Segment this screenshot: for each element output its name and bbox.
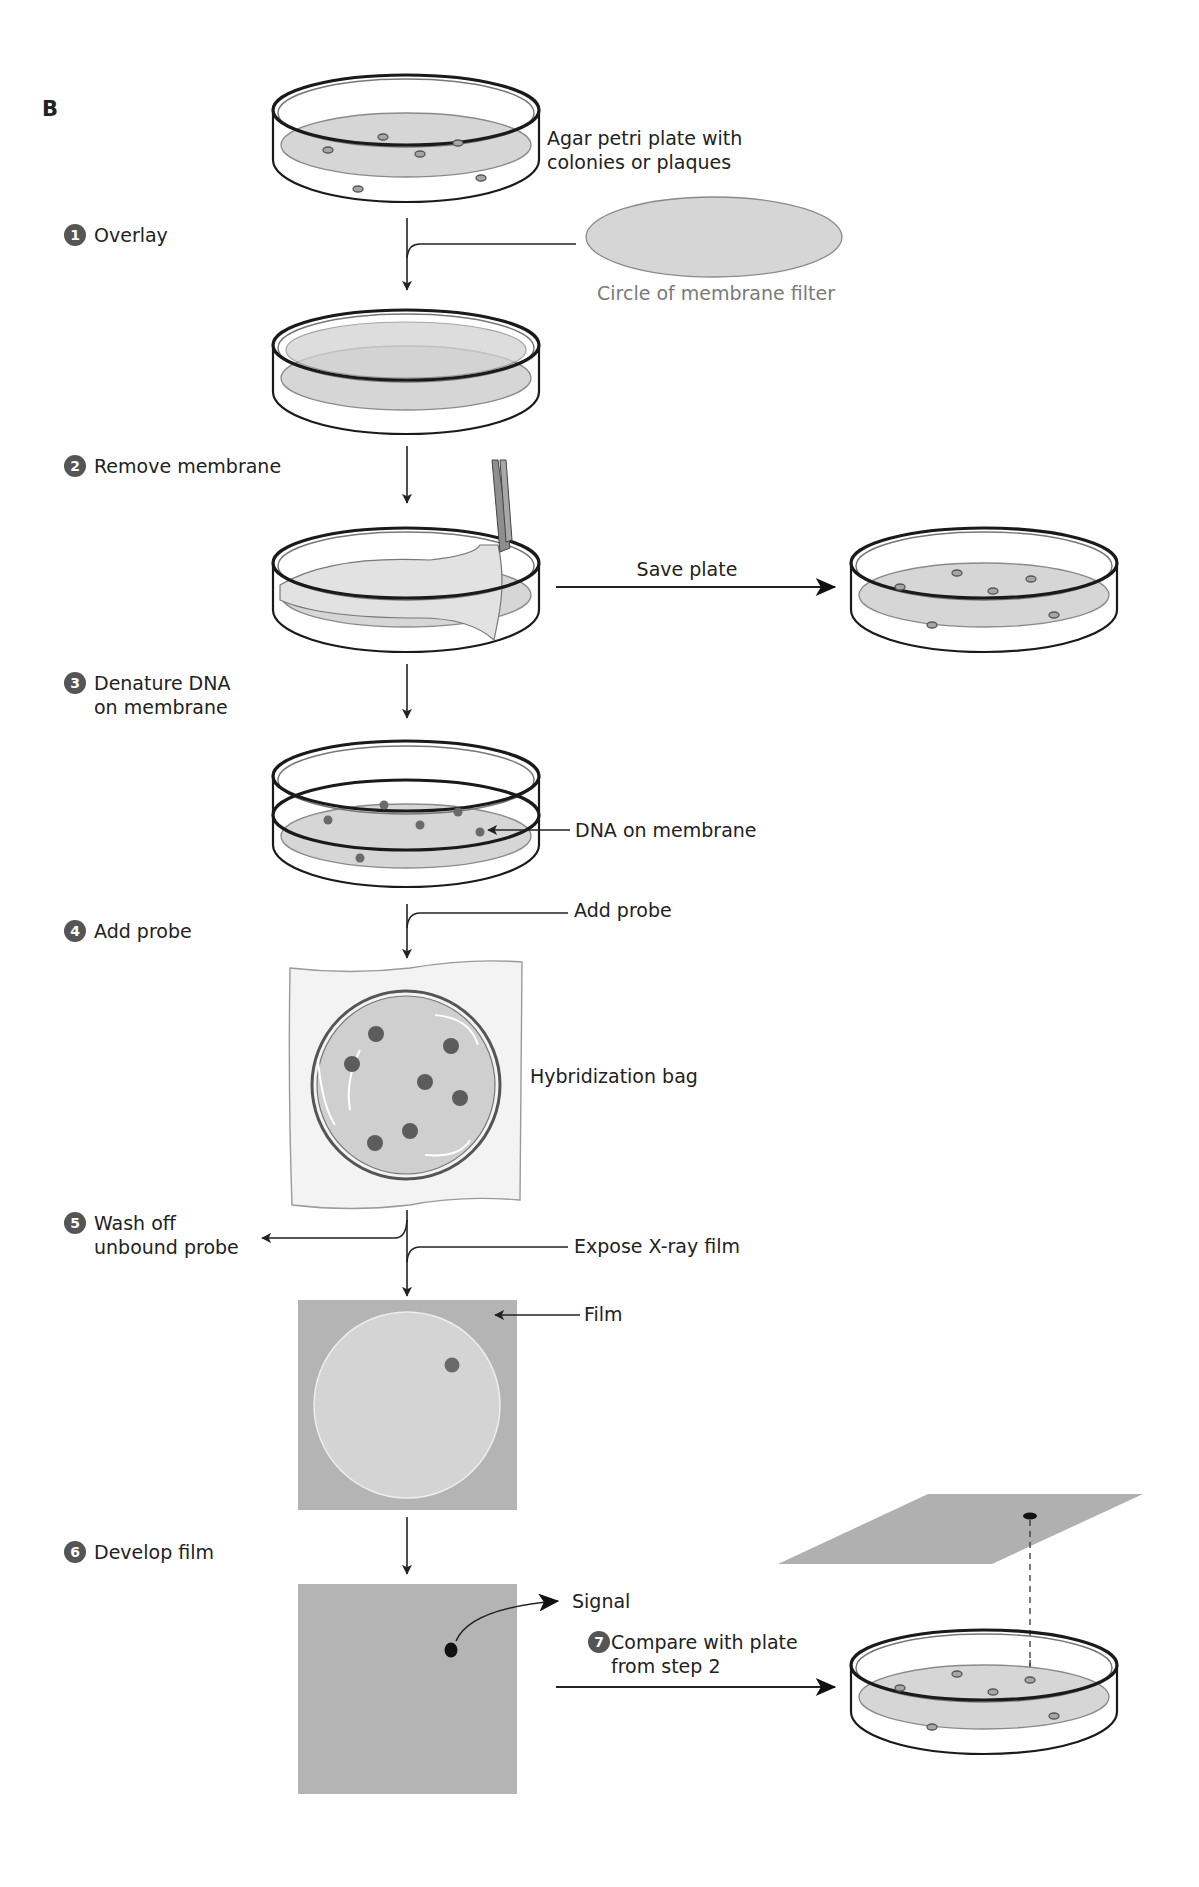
film-exposure <box>298 1300 517 1510</box>
svg-text:1: 1 <box>70 227 80 243</box>
svg-text:from step 2: from step 2 <box>611 1655 720 1677</box>
panel-label: B <box>42 97 58 121</box>
svg-text:Develop film: Develop film <box>94 1541 214 1563</box>
svg-text:Denature DNA: Denature DNA <box>94 672 230 694</box>
svg-text:Agar petri plate with: Agar petri plate with <box>547 127 742 149</box>
signal-spot <box>445 1643 458 1658</box>
step-2-label: 2 Remove membrane <box>64 455 281 477</box>
step-5-label: 5 Wash off unbound probe <box>64 1212 239 1258</box>
signal-spot <box>1023 1513 1037 1520</box>
step-6-label: 6 Develop film <box>64 1541 214 1563</box>
step-7-label: 7 Compare with plate from step 2 <box>588 1631 798 1677</box>
membrane-filter: Circle of membrane filter <box>586 197 842 304</box>
saved-plate <box>851 528 1117 652</box>
colony-hybridization-diagram: B 1 Overlay 2 Remove membrane 3 Denature… <box>0 0 1199 1887</box>
svg-text:Remove membrane: Remove membrane <box>94 455 281 477</box>
svg-text:unbound probe: unbound probe <box>94 1236 239 1258</box>
svg-text:6: 6 <box>70 1544 80 1560</box>
hybridization-bag-label: Hybridization bag <box>530 1065 698 1087</box>
step-3-label: 3 Denature DNA on membrane <box>64 672 230 718</box>
comparison-plate <box>851 1630 1117 1754</box>
dna-on-membrane-label: DNA on membrane <box>575 819 757 841</box>
add-probe-connector <box>407 913 568 928</box>
hybridization-bag <box>289 961 522 1209</box>
svg-text:4: 4 <box>70 923 80 939</box>
svg-text:Circle of membrane filter: Circle of membrane filter <box>597 282 835 304</box>
expose-film-connector <box>407 1247 568 1262</box>
expose-film-label: Expose X-ray film <box>574 1235 740 1257</box>
overlay-connector <box>407 244 576 258</box>
svg-text:on membrane: on membrane <box>94 696 228 718</box>
svg-text:colonies or plaques: colonies or plaques <box>547 151 731 173</box>
signal-label: Signal <box>572 1590 630 1612</box>
wash-off-arrow <box>262 1220 407 1238</box>
svg-text:Wash off: Wash off <box>94 1212 177 1234</box>
svg-text:Overlay: Overlay <box>94 224 168 246</box>
svg-text:5: 5 <box>70 1215 80 1231</box>
save-plate-label: Save plate <box>637 558 738 580</box>
svg-text:2: 2 <box>70 458 80 474</box>
film-label: Film <box>584 1303 623 1325</box>
svg-text:7: 7 <box>594 1634 604 1650</box>
svg-text:Add probe: Add probe <box>94 920 192 942</box>
film-overlay-sheet <box>778 1494 1143 1564</box>
add-probe-label: Add probe <box>574 899 672 921</box>
plate-removing-membrane <box>273 460 539 652</box>
step-1-label: 1 Overlay <box>64 224 168 246</box>
membrane-with-dna <box>273 741 539 887</box>
svg-text:Compare with plate: Compare with plate <box>611 1631 798 1653</box>
plate-with-membrane <box>273 310 539 434</box>
svg-text:3: 3 <box>70 675 80 691</box>
agar-petri-plate: Agar petri plate with colonies or plaque… <box>273 75 742 202</box>
step-4-label: 4 Add probe <box>64 920 192 942</box>
